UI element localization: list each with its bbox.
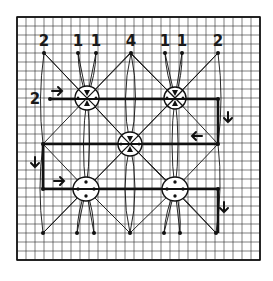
terminal-dot <box>42 51 46 55</box>
grid-diagram: 21141122 <box>0 0 273 281</box>
arrow-down-icon <box>220 202 228 212</box>
node-dot <box>173 194 176 197</box>
terminal-dot <box>180 51 184 55</box>
terminal-dot <box>214 231 218 235</box>
connector-curve <box>40 53 44 144</box>
arrow-right-icon <box>54 177 64 185</box>
terminal-dot <box>75 231 79 235</box>
count-label: 1 <box>177 32 187 50</box>
terminal-dot <box>76 51 80 55</box>
count-labels: 21141122 <box>30 32 223 108</box>
count-label: 1 <box>73 32 83 50</box>
side-count-label: 2 <box>30 90 40 108</box>
count-label: 2 <box>39 32 49 50</box>
terminal-dot <box>178 231 182 235</box>
count-label: 1 <box>91 32 101 50</box>
junction-dot <box>216 187 220 191</box>
count-label: 4 <box>126 32 136 50</box>
junction-dot <box>48 97 52 101</box>
serpentine-path <box>43 99 218 233</box>
circle-nodes <box>43 86 218 201</box>
node-dot <box>84 194 87 197</box>
terminal-dot <box>128 231 132 235</box>
junction-dot <box>216 97 220 101</box>
terminal-dot <box>129 51 133 55</box>
junction-dot <box>216 142 220 146</box>
terminal-dot <box>163 51 167 55</box>
arrow-down-icon <box>224 112 232 122</box>
junction-dot <box>41 142 45 146</box>
arrow-right-icon <box>52 87 62 95</box>
count-label: 1 <box>160 32 170 50</box>
node-dot <box>84 180 87 183</box>
node-dot <box>173 180 176 183</box>
junction-dot <box>41 187 45 191</box>
arrow-down-icon <box>31 157 39 167</box>
count-label: 2 <box>213 32 223 50</box>
terminal-dot <box>41 231 45 235</box>
terminal-dot <box>92 231 96 235</box>
terminal-dot <box>216 51 220 55</box>
terminal-dot <box>162 231 166 235</box>
terminal-dot <box>94 51 98 55</box>
